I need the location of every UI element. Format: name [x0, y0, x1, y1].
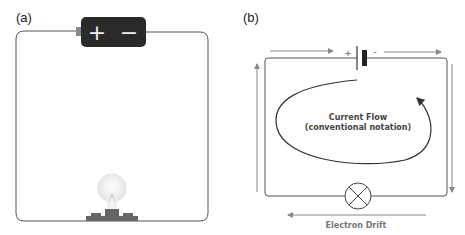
battery-b-positive: + — [344, 48, 352, 58]
panel-a: + − — [16, 17, 208, 221]
current-flow-sublabel: (conventional notation) — [305, 123, 411, 132]
panel-b: + - Current Flow (conventional notation)… — [257, 46, 452, 230]
battery-negative-symbol: − — [120, 20, 138, 45]
electron-drift-label: Electron Drift — [326, 221, 387, 230]
battery-b-negative: - — [373, 47, 376, 57]
light-bulb-icon — [86, 174, 138, 221]
battery-short-plate — [362, 50, 367, 66]
battery-positive-symbol: + — [88, 20, 106, 45]
lamp-symbol-icon — [345, 183, 371, 209]
current-flow-label: Current Flow — [329, 113, 388, 122]
circuit-diagrams: + − + - Current Flow (con — [0, 0, 465, 235]
